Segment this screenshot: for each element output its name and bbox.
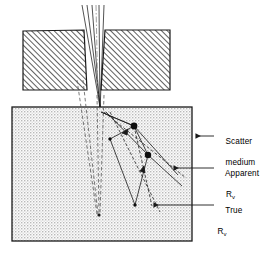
- true-rv-symbol: Rv: [216, 227, 242, 239]
- figure-canvas: Scatter medium Apparent Rv True Rv: [0, 0, 269, 254]
- scatter-event-3: [145, 152, 151, 158]
- scatter-event-4: [133, 203, 136, 206]
- true-beam-focus-point: [97, 213, 100, 216]
- scatter-event-1: [131, 123, 138, 130]
- collimator-right-block: [101, 30, 170, 90]
- scatter-medium-box: [12, 107, 192, 241]
- true-rv-label-text: True: [225, 206, 242, 215]
- scatter-medium-label-line1: Scatter: [226, 137, 253, 146]
- scatter-event-2: [108, 137, 111, 140]
- true-rv-label: True Rv: [216, 195, 242, 254]
- apparent-rv-label-text: Apparent: [225, 169, 259, 178]
